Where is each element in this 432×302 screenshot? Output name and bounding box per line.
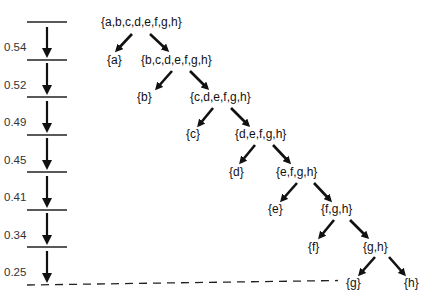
tree-edges [117, 34, 404, 274]
node-h: {h} [404, 276, 419, 290]
edge-arrow-icon [282, 183, 297, 200]
edge-arrow-icon [199, 108, 213, 125]
node-defgh: {d,e,f,g,h} [235, 127, 286, 141]
scale-value: 0.34 [4, 229, 27, 241]
node-efgh: {e,f,g,h} [276, 165, 317, 179]
node-cdefgh: {c,d,e,f,g,h} [190, 90, 251, 104]
dashed-baseline [27, 281, 338, 286]
node-bcdefgh: {b,c,d,e,f,g,h} [141, 53, 212, 67]
scale-value: 0.49 [4, 116, 26, 128]
edge-arrow-icon [150, 34, 167, 50]
scale-value: 0.45 [4, 154, 26, 166]
node-f: {f} [308, 240, 319, 254]
scale-values: 0.54 0.52 0.49 0.45 0.41 0.34 0.25 [4, 41, 27, 278]
node-c: {c} [186, 127, 200, 141]
node-d: {d} [229, 165, 244, 179]
split-tree-diagram: 0.54 0.52 0.49 0.45 0.41 0.34 0.25 {a,b,… [0, 0, 432, 302]
edge-arrow-icon [231, 108, 248, 125]
edge-arrow-icon [157, 71, 172, 88]
edge-arrow-icon [350, 220, 367, 237]
edge-arrow-icon [190, 71, 207, 88]
tree-nodes: {a,b,c,d,e,f,g,h} {a} {b,c,d,e,f,g,h} {b… [101, 15, 419, 290]
scale-value: 0.41 [4, 191, 26, 203]
node-e: {e} [268, 202, 283, 216]
node-b: {b} [137, 90, 152, 104]
scale-value: 0.54 [4, 41, 27, 53]
scale-value: 0.52 [4, 79, 26, 91]
scale-value: 0.25 [4, 266, 26, 278]
node-a: {a} [107, 53, 122, 67]
edge-arrow-icon [320, 220, 334, 237]
node-gh: {g,h} [363, 240, 388, 254]
edge-arrow-icon [389, 257, 404, 274]
node-fgh: {f,g,h} [321, 202, 352, 216]
edge-arrow-icon [117, 34, 132, 50]
edge-arrow-icon [241, 145, 255, 162]
edge-arrow-icon [314, 183, 330, 200]
node-g: {g} [346, 276, 361, 290]
edge-arrow-icon [360, 257, 375, 274]
edge-arrow-icon [273, 145, 289, 162]
node-root: {a,b,c,d,e,f,g,h} [101, 15, 182, 29]
